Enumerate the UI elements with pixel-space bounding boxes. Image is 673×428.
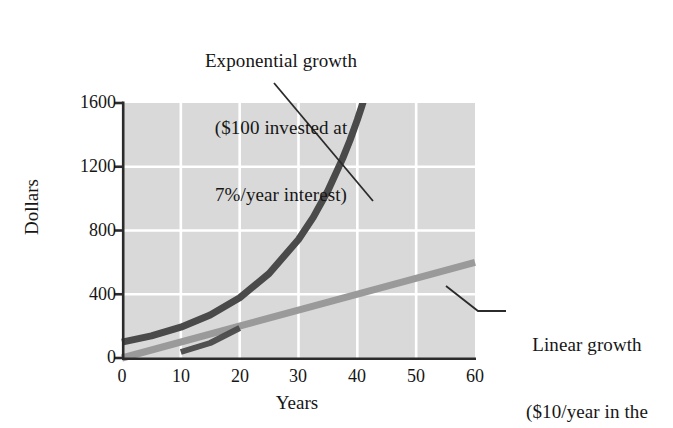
annotation-exponential-line-1: Exponential growth [146,50,416,72]
annotation-exponential-line-3: 7%/year interest) [146,184,416,206]
x-axis-title: Years [232,392,362,414]
annotation-linear-line-2: ($10/year in the [503,401,671,423]
y-axis-title: Dollars [21,147,43,267]
xtick-label-10: 10 [159,366,203,387]
annotation-linear-growth: Linear growth ($10/year in the piggy ban… [503,289,671,428]
xtick-label-0: 0 [100,366,144,387]
annotation-exponential-line-2: ($100 invested at [146,117,416,139]
xtick-label-40: 40 [335,366,379,387]
xtick-label-60: 60 [453,366,497,387]
annotation-exponential-growth: Exponential growth ($100 invested at 7%/… [146,5,416,251]
xtick-label-30: 30 [276,366,320,387]
annotation-linear-line-1: Linear growth [503,334,671,356]
xtick-label-20: 20 [218,366,262,387]
xtick-label-50: 50 [394,366,438,387]
chart-figure: 1600 1200 800 400 0 0 10 20 30 40 50 60 … [0,0,673,428]
